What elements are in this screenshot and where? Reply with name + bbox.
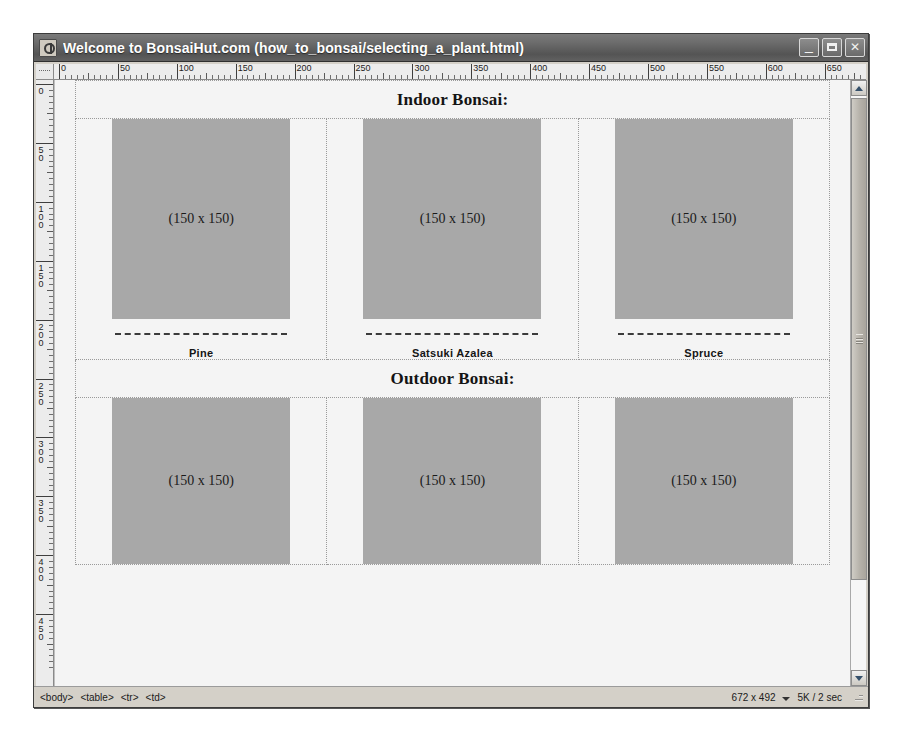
ruler-tick-minor bbox=[359, 75, 360, 79]
ruler-tick-minor bbox=[49, 396, 53, 397]
ruler-tick-minor bbox=[49, 455, 53, 456]
ruler-tick-minor bbox=[571, 75, 572, 79]
ruler-tick-minor bbox=[424, 75, 425, 79]
ruler-tick-minor bbox=[49, 243, 53, 244]
section-heading-cell[interactable]: Outdoor Bonsai: bbox=[76, 360, 830, 398]
ruler-tick-minor bbox=[554, 75, 555, 79]
ruler-tick-minor bbox=[49, 343, 53, 344]
plant-cell[interactable]: (150 x 150)Pine bbox=[76, 119, 327, 360]
image-placeholder[interactable]: (150 x 150) bbox=[615, 398, 793, 564]
ruler-tick-minor bbox=[49, 384, 53, 385]
ruler-tick-minor bbox=[748, 75, 749, 79]
ruler-tick-minor bbox=[736, 73, 737, 79]
resize-grip-icon[interactable] bbox=[852, 691, 864, 703]
ruler-label: 250 bbox=[36, 381, 45, 405]
title-bar[interactable]: Welcome to BonsaiHut.com (how_to_bonsai/… bbox=[34, 34, 868, 62]
ruler-tick-minor bbox=[436, 75, 437, 79]
image-placeholder[interactable]: (150 x 150) bbox=[363, 398, 541, 564]
window-title: Welcome to BonsaiHut.com (how_to_bonsai/… bbox=[63, 40, 791, 56]
ruler-tick-minor bbox=[577, 75, 578, 79]
window-size-indicator[interactable]: 672 x 492 bbox=[732, 692, 776, 703]
ruler-tick-minor bbox=[789, 75, 790, 79]
ruler-tick-minor bbox=[49, 402, 53, 403]
image-placeholder[interactable]: (150 x 150) bbox=[615, 119, 793, 319]
ruler-tick-major bbox=[36, 320, 53, 321]
image-placeholder[interactable]: (150 x 150) bbox=[112, 119, 290, 319]
image-placeholder[interactable]: (150 x 150) bbox=[112, 398, 290, 564]
ruler-origin-corner[interactable] bbox=[36, 64, 54, 80]
ruler-tick-minor bbox=[49, 190, 53, 191]
ruler-tick-minor bbox=[49, 108, 53, 109]
ruler-tick-minor bbox=[595, 75, 596, 79]
plant-row: (150 x 150)Pine(150 x 150)Satsuki Azalea… bbox=[76, 119, 830, 360]
ruler-tick-minor bbox=[49, 237, 53, 238]
ruler-tick-minor bbox=[130, 75, 131, 79]
ruler-tick-minor bbox=[654, 75, 655, 79]
plant-cell[interactable]: (150 x 150)Satsuki Azalea bbox=[327, 119, 578, 360]
ruler-tick-minor bbox=[49, 443, 53, 444]
tag-selector-item[interactable]: <tr> bbox=[121, 692, 139, 703]
ruler-tick-minor bbox=[613, 75, 614, 79]
ruler-tick-minor bbox=[49, 596, 53, 597]
ruler-tick-minor bbox=[489, 75, 490, 79]
document-icon bbox=[39, 39, 57, 57]
ruler-label: 50 bbox=[36, 145, 45, 161]
vertical-scrollbar[interactable] bbox=[850, 80, 866, 686]
ruler-tick-minor bbox=[71, 75, 72, 79]
ruler-label: 400 bbox=[36, 557, 45, 581]
ruler-tick-minor bbox=[583, 75, 584, 79]
ruler-tick-minor bbox=[689, 75, 690, 79]
ruler-tick-minor bbox=[524, 75, 525, 79]
ruler-tick-minor bbox=[49, 284, 53, 285]
ruler-tick-minor bbox=[501, 73, 502, 79]
ruler-label: 200 bbox=[295, 64, 312, 73]
document-canvas[interactable]: Indoor Bonsai:(150 x 150)Pine(150 x 150)… bbox=[54, 80, 850, 686]
minimize-button[interactable]: _ bbox=[799, 38, 819, 57]
horizontal-ruler[interactable]: 050100150200250300350400450500550600650 bbox=[54, 64, 866, 80]
ruler-tick-major bbox=[36, 437, 53, 438]
ruler-tick-minor bbox=[49, 225, 53, 226]
tag-selector-item[interactable]: <table> bbox=[80, 692, 113, 703]
plant-cell[interactable]: (150 x 150)Spruce bbox=[578, 119, 829, 360]
ruler-tick-minor bbox=[47, 231, 53, 232]
ruler-label: 0 bbox=[36, 86, 45, 94]
maximize-button[interactable] bbox=[822, 38, 842, 57]
ruler-tick-minor bbox=[430, 75, 431, 79]
scrollbar-track[interactable] bbox=[851, 96, 866, 670]
ruler-tick-minor bbox=[277, 75, 278, 79]
scrollbar-thumb[interactable] bbox=[851, 98, 867, 580]
scroll-up-button[interactable] bbox=[851, 80, 867, 96]
ruler-label: 200 bbox=[36, 322, 45, 346]
ruler-tick-minor bbox=[49, 249, 53, 250]
ruler-tick-minor bbox=[49, 219, 53, 220]
ruler-tick-minor bbox=[259, 75, 260, 79]
ruler-tick-minor bbox=[642, 75, 643, 79]
plant-cell[interactable]: (150 x 150) bbox=[76, 398, 327, 565]
ruler-tick-minor bbox=[49, 373, 53, 374]
screenshot-root: Welcome to BonsaiHut.com (how_to_bonsai/… bbox=[0, 0, 901, 740]
ruler-tick-minor bbox=[230, 75, 231, 79]
image-placeholder[interactable]: (150 x 150) bbox=[363, 119, 541, 319]
ruler-tick-minor bbox=[49, 579, 53, 580]
plant-row: (150 x 150)(150 x 150)(150 x 150) bbox=[76, 398, 830, 565]
vertical-ruler[interactable]: 050100150200250300350400450 bbox=[36, 80, 54, 686]
ruler-tick-minor bbox=[783, 75, 784, 79]
ruler-tick-minor bbox=[49, 567, 53, 568]
scroll-down-button[interactable] bbox=[851, 670, 867, 686]
section-heading-cell[interactable]: Indoor Bonsai: bbox=[76, 81, 830, 119]
ruler-tick-minor bbox=[218, 75, 219, 79]
plant-cell[interactable]: (150 x 150) bbox=[578, 398, 829, 565]
ruler-tick-minor bbox=[124, 75, 125, 79]
ruler-tick-minor bbox=[49, 449, 53, 450]
chevron-down-icon[interactable] bbox=[782, 697, 790, 701]
tag-selector[interactable]: <body><table><tr><td> bbox=[34, 692, 732, 703]
ruler-tick-minor bbox=[49, 178, 53, 179]
tag-selector-item[interactable]: <body> bbox=[40, 692, 73, 703]
plant-cell[interactable]: (150 x 150) bbox=[327, 398, 578, 565]
ruler-tick-minor bbox=[854, 73, 855, 79]
layout-table[interactable]: Indoor Bonsai:(150 x 150)Pine(150 x 150)… bbox=[75, 80, 830, 565]
ruler-tick-minor bbox=[94, 75, 95, 79]
tag-selector-item[interactable]: <td> bbox=[146, 692, 166, 703]
close-button[interactable]: ✕ bbox=[845, 38, 865, 57]
ruler-tick-minor bbox=[49, 473, 53, 474]
